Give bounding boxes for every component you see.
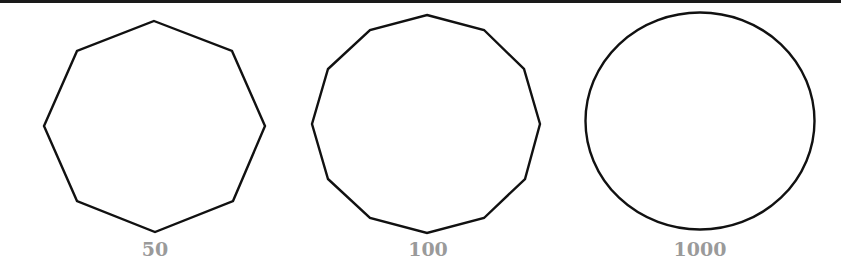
label-50: 50 xyxy=(142,238,168,260)
label-1000: 1000 xyxy=(674,238,727,260)
octagon-shape xyxy=(44,21,265,232)
circle-shape xyxy=(586,13,815,230)
polygon-approximation-figure xyxy=(0,0,863,271)
label-100: 100 xyxy=(408,238,448,260)
dodecagon-shape xyxy=(312,15,540,233)
